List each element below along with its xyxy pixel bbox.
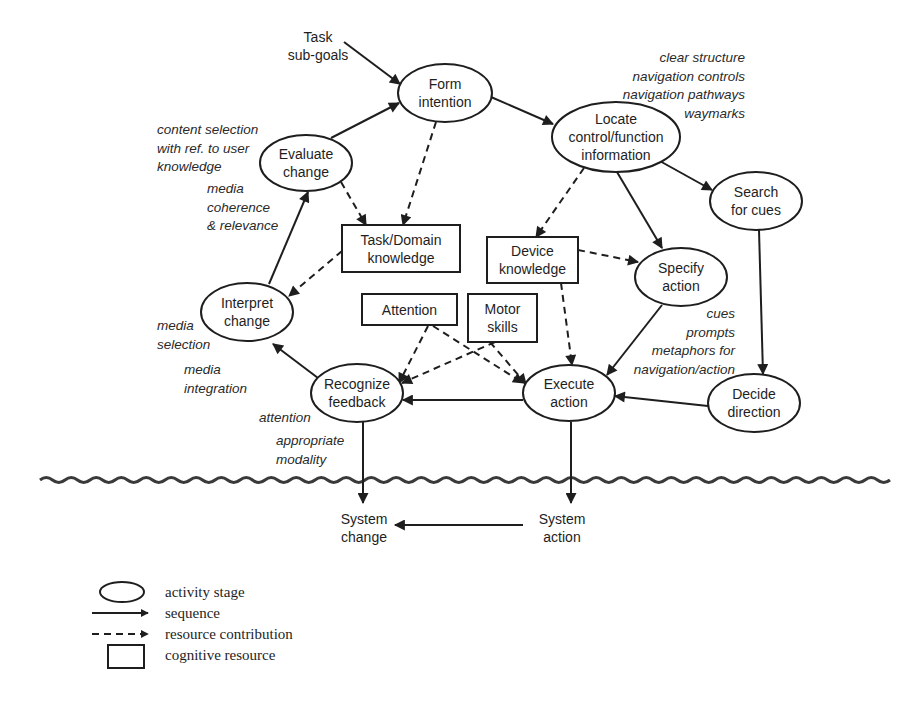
sequence-arrow — [658, 160, 712, 190]
cognitive-resource-device: Deviceknowledge — [487, 237, 578, 283]
activity-stage-label-line: intention — [419, 94, 472, 110]
cognitive-resource-motor: Motorskills — [468, 294, 537, 342]
note-interpret-selection: mediaselection — [157, 318, 210, 352]
label-line: System — [341, 511, 388, 527]
cognitive-resource-attention: Attention — [362, 294, 457, 325]
note-recognize-attention: attention — [259, 410, 311, 425]
annotation-line: knowledge — [157, 159, 222, 174]
legend-ellipse-icon — [100, 582, 144, 602]
note-specify: cuespromptsmetaphors fornavigation/actio… — [634, 306, 736, 377]
activity-stage-label-line: Search — [734, 184, 778, 200]
annotation-line: clear structure — [659, 50, 745, 65]
annotation-line: navigation pathways — [623, 87, 746, 102]
legend-item-dashed-arrow: resource contribution — [92, 626, 293, 642]
resource-contribution-arrow — [341, 182, 366, 225]
legend-label: cognitive resource — [165, 647, 276, 663]
label-task-subgoals: Tasksub-goals — [288, 29, 349, 63]
activity-stage-label-line: Interpret — [221, 295, 273, 311]
annotation-line: navigation/action — [634, 362, 735, 377]
annotation-line: media — [157, 318, 194, 333]
resource-contribution-arrow — [536, 168, 584, 237]
annotation-line: modality — [276, 452, 328, 467]
legend-rectangle-icon — [108, 645, 144, 668]
activity-stage-label-line: direction — [728, 404, 781, 420]
ellipse-shape — [523, 365, 615, 421]
cognitive-resource-label-line: knowledge — [499, 261, 566, 277]
activity-stage-evaluate: Evaluatechange — [260, 135, 352, 191]
activity-stage-label-line: information — [581, 147, 650, 163]
sequence-arrow — [759, 230, 763, 374]
legend-label: activity stage — [165, 584, 245, 600]
sequence-arrow — [344, 42, 400, 84]
cognitive-resource-taskdomain: Task/Domainknowledge — [342, 225, 460, 272]
activity-stage-decide: Decidedirection — [708, 374, 800, 432]
activity-stage-search: Searchfor cues — [710, 172, 802, 230]
annotation-line: selection — [157, 337, 210, 352]
label-system-change: Systemchange — [341, 511, 388, 545]
note-evaluate-content: content selectionwith ref. to userknowle… — [157, 122, 258, 174]
legend-label: sequence — [165, 605, 220, 621]
note-recognize-modality: appropriatemodality — [276, 433, 344, 467]
label-line: change — [341, 529, 387, 545]
activity-stage-label-line: action — [662, 278, 699, 294]
ellipse-shape — [201, 283, 293, 341]
cognitive-resource-label-line: Task/Domain — [361, 232, 442, 248]
activity-stage-label-line: Execute — [544, 376, 595, 392]
annotation-line: prompts — [685, 325, 735, 340]
cognitive-resource-label-line: Motor — [485, 301, 521, 317]
activity-stage-label-line: control/function — [569, 129, 664, 145]
sequence-arrow — [273, 344, 318, 378]
note-interpret-integration: mediaintegration — [184, 362, 247, 396]
system-boundary-wave — [40, 478, 890, 483]
annotation-line: attention — [259, 410, 311, 425]
legend-label: resource contribution — [165, 626, 293, 642]
annotation-line: & relevance — [207, 218, 278, 233]
system-boundary-line — [40, 478, 890, 483]
sequence-arrow — [617, 172, 662, 248]
ellipse-shape — [398, 64, 492, 122]
resource-contribution-arrow — [289, 251, 342, 296]
activity-stage-label-line: Form — [429, 76, 462, 92]
annotation-line: appropriate — [276, 433, 344, 448]
activity-stage-execute: Executeaction — [523, 365, 615, 421]
annotation-line: metaphors for — [652, 343, 736, 358]
annotation-line: cues — [706, 306, 735, 321]
activity-stage-label-line: Specify — [658, 260, 704, 276]
activity-stage-label-line: change — [283, 164, 329, 180]
label-line: Task — [304, 29, 334, 45]
annotation-line: with ref. to user — [157, 141, 250, 156]
activity-stage-locate: Locatecontrol/functioninformation — [552, 102, 680, 172]
cognitive-resource-label-line: Device — [511, 243, 554, 259]
legend-item-solid-arrow: sequence — [92, 605, 220, 621]
annotation-line: content selection — [157, 122, 258, 137]
sequence-arrow — [491, 97, 553, 124]
ellipse-shape — [708, 374, 800, 432]
annotation-line: navigation controls — [632, 69, 745, 84]
activity-stage-label-line: action — [550, 394, 587, 410]
ellipse-shape — [311, 364, 403, 422]
resource-contribution-arrow — [561, 283, 572, 365]
resource-contribution-arrow — [578, 250, 638, 262]
legend-item-rectangle: cognitive resource — [108, 645, 276, 668]
label-system-action: Systemaction — [539, 511, 586, 545]
activity-stage-label-line: feedback — [329, 394, 387, 410]
legend: activity stagesequenceresource contribut… — [92, 582, 293, 668]
note-evaluate-media: mediacoherence& relevance — [207, 181, 278, 233]
activity-stage-label-line: Decide — [732, 386, 776, 402]
resource-contribution-arrow — [403, 122, 436, 225]
activity-stage-form: Formintention — [398, 64, 492, 122]
activity-stage-label-line: change — [224, 313, 270, 329]
label-line: sub-goals — [288, 47, 349, 63]
activity-stage-label-line: Locate — [595, 111, 637, 127]
activity-stage-specify: Specifyaction — [635, 248, 727, 306]
cognitive-resource-label-line: knowledge — [368, 250, 435, 266]
annotation-line: integration — [184, 381, 247, 396]
activity-stage-recognize: Recognizefeedback — [311, 364, 403, 422]
legend-item-ellipse: activity stage — [100, 582, 245, 602]
ellipse-shape — [710, 172, 802, 230]
interaction-model-diagram: FormintentionLocatecontrol/functioninfor… — [0, 0, 919, 717]
resource-contribution-arrow — [490, 342, 526, 384]
cognitive-resource-label-line: Attention — [382, 302, 437, 318]
annotation-line: waymarks — [684, 106, 745, 121]
annotation-line: media — [207, 181, 244, 196]
